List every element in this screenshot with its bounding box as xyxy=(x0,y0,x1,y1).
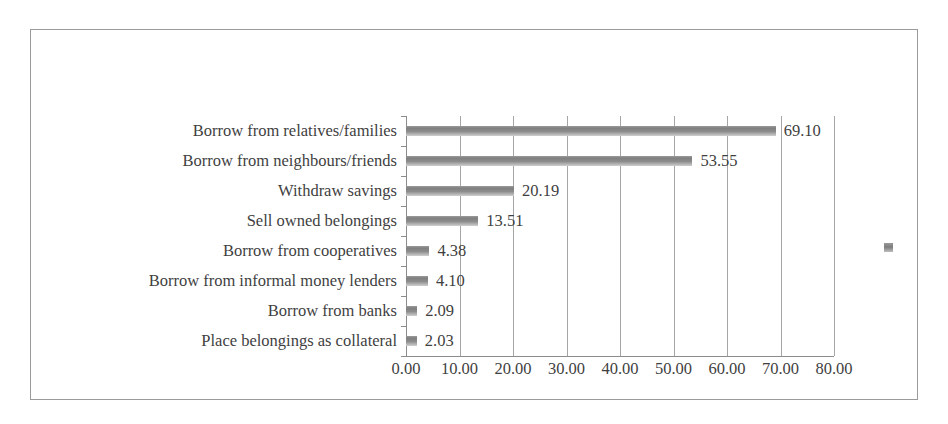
y-axis-tickmark xyxy=(401,146,406,147)
bar[interactable] xyxy=(406,156,692,166)
bar[interactable] xyxy=(406,186,514,196)
bar-value-label: 4.38 xyxy=(437,243,466,260)
gridline xyxy=(834,116,835,356)
bar[interactable] xyxy=(406,246,429,256)
bar-row: Withdraw savings20.19 xyxy=(406,176,834,206)
bar-value-label: 69.10 xyxy=(784,123,821,140)
bar-row: Borrow from cooperatives4.38 xyxy=(406,236,834,266)
x-axis-line xyxy=(406,356,834,357)
bar-row: Borrow from relatives/families69.10 xyxy=(406,116,834,146)
category-label: Place belongings as collateral xyxy=(201,333,397,350)
bar[interactable] xyxy=(406,216,478,226)
bar-row: Place belongings as collateral2.03 xyxy=(406,326,834,356)
y-axis-tickmark xyxy=(401,176,406,177)
y-axis-tickmark xyxy=(401,326,406,327)
x-axis-tick-label: 10.00 xyxy=(441,361,478,378)
x-axis-tick-label: 60.00 xyxy=(708,361,745,378)
bar-row: Borrow from informal money lenders4.10 xyxy=(406,266,834,296)
bar-row: Borrow from neighbours/friends53.55 xyxy=(406,146,834,176)
category-label: Withdraw savings xyxy=(278,183,397,200)
y-axis-tickmark xyxy=(401,296,406,297)
bar-value-label: 2.03 xyxy=(425,333,454,350)
bar-row: Borrow from banks2.09 xyxy=(406,296,834,326)
bar-value-label: 20.19 xyxy=(522,183,559,200)
category-label: Borrow from neighbours/friends xyxy=(183,153,397,170)
y-axis-tickmark xyxy=(401,206,406,207)
category-label: Borrow from relatives/families xyxy=(193,123,397,140)
x-axis-tick-label: 20.00 xyxy=(494,361,531,378)
category-label: Borrow from cooperatives xyxy=(223,243,397,260)
x-axis-tick-labels: 0.0010.0020.0030.0040.0050.0060.0070.008… xyxy=(406,361,834,385)
x-axis-tick-label: 0.00 xyxy=(392,361,421,378)
bar[interactable] xyxy=(406,276,428,286)
bar-value-label: 13.51 xyxy=(486,213,523,230)
bar-row: Sell owned belongings13.51 xyxy=(406,206,834,236)
category-label: Borrow from banks xyxy=(268,303,397,320)
bar-value-label: 2.09 xyxy=(425,303,454,320)
category-label: Borrow from informal money lenders xyxy=(149,273,397,290)
y-axis-tickmark xyxy=(401,236,406,237)
plot-area: Borrow from relatives/families69.10Borro… xyxy=(406,116,834,356)
x-axis-tick-label: 50.00 xyxy=(655,361,692,378)
y-axis-tickmark xyxy=(401,266,406,267)
bar-value-label: 53.55 xyxy=(700,153,737,170)
chart-frame: Borrow from relatives/families69.10Borro… xyxy=(30,29,918,400)
x-axis-tick-label: 80.00 xyxy=(815,361,852,378)
bar[interactable] xyxy=(406,336,417,346)
category-label: Sell owned belongings xyxy=(247,213,397,230)
bar-value-label: 4.10 xyxy=(436,273,465,290)
x-axis-tick-label: 40.00 xyxy=(601,361,638,378)
legend-marker-square xyxy=(884,243,893,252)
bar[interactable] xyxy=(406,306,417,316)
bar[interactable] xyxy=(406,126,776,136)
y-axis-tickmark xyxy=(401,116,406,117)
x-axis-tick-label: 30.00 xyxy=(548,361,585,378)
x-axis-tick-label: 70.00 xyxy=(762,361,799,378)
